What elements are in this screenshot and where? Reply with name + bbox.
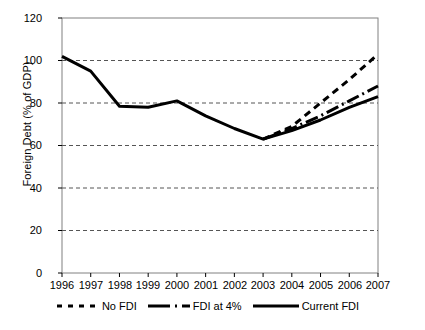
- series-line-current-fdi: [62, 56, 378, 139]
- solid-line-swatch: [252, 300, 300, 312]
- y-tick-marks: [58, 18, 62, 273]
- dotted-line-swatch: [56, 300, 100, 312]
- chart-container: Foreign Debt (% of GDP) 120 100 80 60 40…: [0, 0, 425, 330]
- legend-label-fdi-at-4: FDI at 4%: [193, 300, 242, 312]
- chart-legend: No FDI FDI at 4% Current FDI: [0, 300, 425, 312]
- legend-item-current-fdi[interactable]: Current FDI: [252, 300, 369, 312]
- data-series-layer: [62, 54, 378, 139]
- dash-dot-line-swatch: [147, 300, 191, 312]
- x-tick-marks: [62, 273, 378, 277]
- legend-item-no-fdi[interactable]: No FDI: [56, 300, 147, 312]
- grid-lines: [62, 61, 378, 231]
- series-line-no-fdi: [263, 54, 378, 139]
- legend-label-no-fdi: No FDI: [102, 300, 137, 312]
- legend-item-fdi-at-4[interactable]: FDI at 4%: [147, 300, 252, 312]
- legend-label-current-fdi: Current FDI: [302, 300, 359, 312]
- plot-area: [0, 0, 425, 330]
